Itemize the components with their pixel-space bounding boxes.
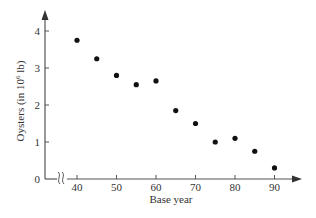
y-axis-arrow-icon — [42, 10, 49, 20]
data-point — [94, 56, 99, 61]
data-point — [272, 165, 277, 170]
x-tick-label: 60 — [151, 181, 163, 193]
y-tick-label: 4 — [35, 25, 41, 37]
x-tick-label: 90 — [269, 181, 281, 193]
data-point — [173, 108, 178, 113]
x-tick-label: 70 — [190, 181, 202, 193]
x-axis-label: Base year — [149, 193, 192, 205]
data-point — [74, 38, 79, 43]
x-tick-label: 50 — [111, 181, 123, 193]
y-tick-label: 0 — [35, 173, 41, 185]
data-point — [153, 78, 158, 83]
axis-break-icon — [58, 172, 64, 184]
data-point — [232, 136, 237, 141]
x-ticks: 405060708090 — [72, 175, 281, 193]
y-ticks: 01234 — [35, 25, 50, 185]
x-tick-label: 80 — [230, 181, 242, 193]
data-point — [134, 82, 139, 87]
data-point — [252, 149, 257, 154]
data-points — [74, 38, 277, 171]
data-point — [114, 73, 119, 78]
scatter-chart: 01234 405060708090 Base year Oysters (in… — [0, 0, 316, 218]
x-tick-label: 40 — [72, 181, 84, 193]
y-axis-label: Oysters (in 106 lb) — [14, 60, 27, 141]
y-tick-label: 2 — [35, 99, 41, 111]
y-tick-label: 1 — [35, 136, 41, 148]
data-point — [213, 139, 218, 144]
data-point — [193, 121, 198, 126]
x-axis-arrow-icon — [292, 176, 302, 183]
y-tick-label: 3 — [35, 62, 41, 74]
